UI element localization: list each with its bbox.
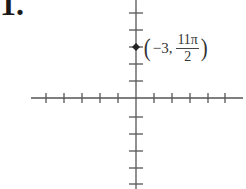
- point-label: ( −3, 11π 2 ): [143, 33, 209, 63]
- axes: [31, 0, 243, 189]
- point-marker: [132, 43, 140, 51]
- theta-numerator: 11π: [176, 33, 199, 49]
- theta-denominator: 2: [184, 49, 191, 64]
- theta-fraction: 11π 2: [176, 33, 199, 64]
- close-paren: ): [201, 35, 208, 61]
- polar-point-plot: [0, 0, 246, 189]
- plotted-point: [132, 43, 140, 51]
- open-paren: (: [144, 35, 151, 61]
- r-value: −3,: [153, 40, 173, 57]
